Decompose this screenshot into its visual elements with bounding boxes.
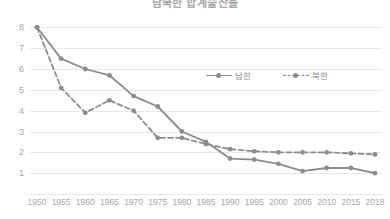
y-axis-tick-label: 8 [8,22,24,32]
data-point [131,94,136,99]
data-point [276,161,281,166]
legend-label-south: 남한 [235,69,251,81]
data-point [83,110,88,115]
y-axis-tick-label: 2 [8,147,24,157]
data-point [300,169,305,174]
legend-item-south: 남한 [206,69,251,81]
x-axis-tick-label: 2000 [269,197,288,207]
data-point [373,171,378,176]
data-point [155,135,160,140]
data-point [300,150,305,155]
data-point [252,149,257,154]
page-title: 남북한 합계출산율 [0,0,390,9]
data-point [349,166,354,171]
chart-root: 남북한 합계출산율 87654321 195019551960196519701… [0,0,390,219]
chart-legend: 남한 북한 [206,69,328,81]
data-point [155,104,160,109]
x-axis-tick-label: 1990 [221,197,240,207]
data-point [324,166,329,171]
data-point [252,157,257,162]
x-axis-tick-label: 2005 [293,197,312,207]
x-axis-tick-label: 1960 [76,197,95,207]
data-series-layer [30,19,382,194]
chart-title-strip: 남북한 합계출산율 [0,0,390,9]
x-axis-tick-label: 1950 [28,197,47,207]
x-axis-tick-label: 1975 [148,197,167,207]
y-axis-tick-label: 4 [8,106,24,116]
legend-label-north: 북한 [312,69,328,81]
data-point [324,150,329,155]
data-point [180,135,185,140]
data-point [107,73,112,78]
y-axis-tick-label: 6 [8,64,24,74]
x-axis-tick-label: 1985 [197,197,216,207]
data-point [35,25,40,30]
data-point [349,151,354,156]
data-point [59,56,64,61]
legend-marker-solid-icon [206,71,232,80]
legend-item-north: 북한 [283,69,328,81]
data-point [59,85,64,90]
legend-marker-dashed-icon [283,71,309,80]
x-axis-tick-label: 1965 [100,197,119,207]
y-axis-tick-label: 1 [8,168,24,178]
x-axis-tick-label: 1995 [245,197,264,207]
data-point [83,67,88,72]
data-point [228,147,233,152]
data-point [131,108,136,113]
data-point [276,150,281,155]
data-point [373,152,378,157]
x-axis-tick-label: 2010 [317,197,336,207]
series-line-북한 [37,27,375,154]
gridline [30,194,382,195]
plot-area: 87654321 1950195519601965197019751980198… [30,19,382,194]
y-axis-tick-label: 5 [8,85,24,95]
series-line-남한 [37,27,375,173]
data-point [107,98,112,103]
data-point [180,129,185,134]
x-axis-tick-label: 1955 [52,197,71,207]
x-axis-tick-label: 2018 [366,197,385,207]
x-axis-tick-label: 2015 [341,197,360,207]
y-axis-tick-label: 7 [8,43,24,53]
data-point [228,156,233,161]
data-point [204,142,209,147]
x-axis-tick-label: 1970 [124,197,143,207]
y-axis-tick-label: 3 [8,127,24,137]
x-axis-tick-label: 1980 [172,197,191,207]
